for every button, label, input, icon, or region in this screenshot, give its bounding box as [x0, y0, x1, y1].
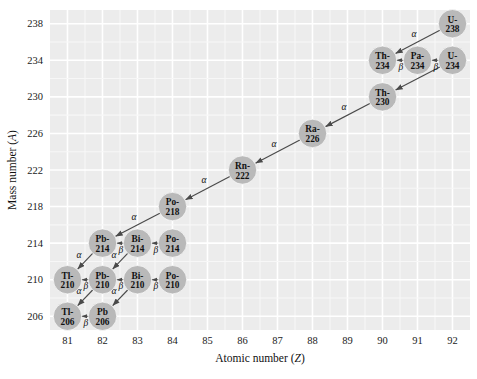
decay-label-beta: β: [117, 281, 123, 291]
x-tick-label: 84: [167, 335, 178, 346]
nuclide-node[interactable]: Th-234: [368, 46, 396, 74]
nuclide-mass: 234: [446, 61, 460, 71]
nuclide-mass: 206: [96, 317, 110, 327]
nuclide-node[interactable]: Pb-210: [88, 266, 116, 294]
nuclide-node[interactable]: Pa-234: [403, 46, 431, 74]
x-tick-label: 88: [307, 335, 318, 346]
x-tick-label: 86: [237, 335, 248, 346]
nuclide-node[interactable]: Bi-210: [123, 266, 151, 294]
nuclide-node[interactable]: Th-230: [368, 83, 396, 111]
decay-label-beta: β: [432, 62, 438, 72]
nuclide-node[interactable]: Bi-214: [123, 229, 151, 257]
y-tick-label: 218: [27, 201, 43, 212]
x-axis-tick-labels: 818283848586878889909192: [62, 335, 458, 346]
nuclide-node[interactable]: U-234: [438, 46, 466, 74]
nuclide-mass: 234: [376, 61, 390, 71]
nuclide-mass: 222: [236, 171, 250, 181]
x-tick-label: 87: [272, 335, 283, 346]
nuclide-mass: 214: [166, 244, 180, 254]
nuclide-symbol: Ra-: [305, 124, 319, 134]
nuclide-symbol: Po-: [166, 197, 179, 207]
x-tick-label: 81: [62, 335, 73, 346]
nuclide-symbol: Pb-: [96, 234, 110, 244]
decay-label-beta: β: [82, 281, 88, 291]
x-tick-label: 90: [377, 335, 388, 346]
y-tick-label: 206: [27, 311, 43, 322]
nuclide-node[interactable]: Tl-206: [53, 302, 81, 330]
y-tick-label: 214: [27, 238, 44, 249]
nuclide-symbol: Pb: [97, 307, 108, 317]
nuclide-node[interactable]: Pb-214: [88, 229, 116, 257]
nuclide-mass: 210: [96, 280, 110, 290]
x-tick-label: 89: [342, 335, 353, 346]
y-tick-label: 226: [27, 128, 43, 139]
decay-chain-figure: αββαααααββααβββααβ U-238Th-234Pa-234U-23…: [0, 0, 477, 379]
y-tick-label: 210: [27, 274, 43, 285]
nuclide-mass: 214: [96, 244, 110, 254]
nuclide-symbol: Rn-: [235, 161, 250, 171]
y-tick-label: 222: [27, 165, 43, 176]
nuclide-symbol: Pa-: [411, 51, 424, 61]
x-tick-label: 92: [447, 335, 458, 346]
nuclide-node[interactable]: Ra-226: [298, 119, 326, 147]
nuclide-mass: 210: [61, 280, 75, 290]
nuclide-symbol: Pb-: [96, 271, 110, 281]
nuclide-mass: 218: [166, 207, 180, 217]
nuclide-symbol: Th-: [375, 51, 389, 61]
nuclide-node[interactable]: Po-214: [158, 229, 186, 257]
nuclide-node[interactable]: Tl-210: [53, 266, 81, 294]
y-tick-label: 230: [27, 91, 43, 102]
decay-label-beta: β: [117, 245, 123, 255]
decay-label-beta: β: [152, 245, 158, 255]
nuclide-mass: 210: [131, 280, 145, 290]
nuclide-mass: 210: [166, 280, 180, 290]
y-axis-title: Mass number (A): [6, 130, 19, 210]
decay-label-beta: β: [82, 318, 88, 328]
y-tick-label: 238: [27, 18, 43, 29]
nuclide-symbol: Th-: [375, 88, 389, 98]
decay-label-beta: β: [397, 62, 403, 72]
nuclide-symbol: Po-: [166, 271, 179, 281]
nuclide-symbol: Bi-: [132, 234, 144, 244]
nuclide-mass: 226: [306, 134, 320, 144]
x-axis-title: Atomic number (Z): [215, 352, 305, 365]
x-tick-label: 85: [202, 335, 213, 346]
nuclide-symbol: Tl-: [62, 307, 74, 317]
x-tick-label: 91: [412, 335, 423, 346]
x-tick-label: 82: [97, 335, 108, 346]
nuclide-mass: 230: [376, 97, 390, 107]
decay-chain-chart: αββαααααββααβββααβ U-238Th-234Pa-234U-23…: [0, 0, 477, 379]
y-tick-label: 234: [27, 55, 44, 66]
nuclide-symbol: Tl-: [62, 271, 74, 281]
nuclide-mass: 238: [446, 24, 460, 34]
nuclide-symbol: U-: [448, 15, 458, 25]
nuclide-symbol: U-: [448, 51, 458, 61]
decay-label-beta: β: [152, 281, 158, 291]
nuclide-node[interactable]: Po-210: [158, 266, 186, 294]
nuclide-node[interactable]: Rn-222: [228, 156, 256, 184]
nuclide-node[interactable]: Po-218: [158, 192, 186, 220]
nuclide-mass: 214: [131, 244, 145, 254]
nuclide-symbol: Bi-: [132, 271, 144, 281]
x-tick-label: 83: [132, 335, 143, 346]
y-axis-tick-labels: 206210214218222226230234238: [27, 18, 44, 322]
nuclide-mass: 206: [61, 317, 75, 327]
nuclide-node[interactable]: Pb 206: [88, 302, 116, 330]
nuclide-node[interactable]: U-238: [438, 10, 466, 38]
nuclide-mass: 234: [411, 61, 425, 71]
nuclide-symbol: Po-: [166, 234, 179, 244]
